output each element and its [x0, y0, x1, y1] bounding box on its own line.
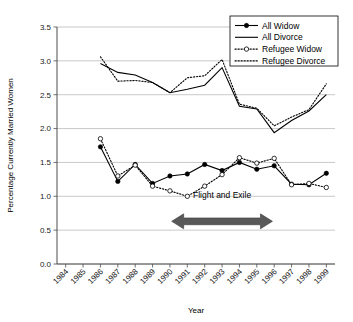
y-tick-label: 3.0 — [40, 57, 52, 66]
y-tick-label: 2.5 — [40, 91, 52, 100]
data-point-marker — [324, 185, 328, 189]
legend-swatch-marker — [244, 23, 248, 27]
data-point-marker — [202, 162, 206, 166]
legend-label: All Widow — [262, 21, 300, 31]
line-chart: 0.00.51.01.52.02.53.03.5 198419851986198… — [0, 0, 353, 322]
data-point-marker — [98, 137, 102, 141]
data-point-marker — [289, 183, 293, 187]
data-point-marker — [220, 172, 224, 176]
data-point-marker — [237, 160, 241, 164]
legend-label: Refugee Divorce — [262, 56, 326, 66]
data-point-marker — [98, 145, 102, 149]
data-point-marker — [255, 161, 259, 165]
data-point-marker — [324, 171, 328, 175]
legend-label: Refugee Widow — [262, 44, 323, 54]
y-tick-label: 2.0 — [40, 124, 52, 133]
y-tick-label: 1.0 — [40, 192, 52, 201]
data-point-marker — [185, 194, 189, 198]
data-point-marker — [202, 184, 206, 188]
data-point-marker — [116, 174, 120, 178]
y-axis-title: Percentage Currently Married Women — [6, 78, 15, 213]
y-tick-label: 1.5 — [40, 158, 52, 167]
x-axis-title: Year — [188, 306, 205, 315]
data-point-marker — [307, 181, 311, 185]
data-point-marker — [133, 163, 137, 167]
data-point-marker — [272, 164, 276, 168]
data-point-marker — [116, 179, 120, 183]
y-tick-label: 0.0 — [40, 260, 52, 269]
data-point-marker — [168, 174, 172, 178]
flight-and-exile-label: Flight and Exile — [193, 190, 251, 200]
data-point-marker — [237, 155, 241, 159]
data-point-marker — [185, 172, 189, 176]
data-point-marker — [255, 167, 259, 171]
y-tick-label: 3.5 — [40, 23, 52, 32]
chart-figure: 0.00.51.01.52.02.53.03.5 198419851986198… — [0, 0, 353, 322]
legend-swatch-marker — [244, 47, 248, 51]
data-point-marker — [168, 189, 172, 193]
data-point-marker — [272, 156, 276, 160]
y-tick-label: 0.5 — [40, 226, 52, 235]
data-point-marker — [150, 184, 154, 188]
chart-legend: All WidowAll DivorceRefugee WidowRefugee… — [230, 16, 338, 66]
legend-label: All Divorce — [262, 32, 303, 42]
